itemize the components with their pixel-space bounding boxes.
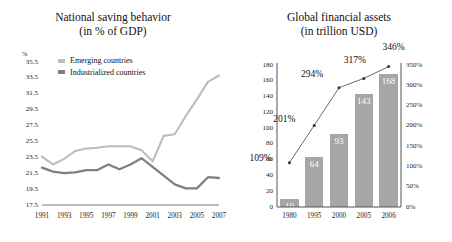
- line-chart-plot: [0, 0, 226, 242]
- percent-data-point: [313, 124, 316, 127]
- percent-data-point: [288, 161, 291, 164]
- line-series-industrialized: [42, 158, 219, 188]
- percent-data-point: [338, 86, 341, 89]
- national-saving-chart-panel: National saving behavior (in % of GDP) %…: [0, 0, 226, 242]
- percent-data-point: [387, 65, 390, 68]
- percent-data-point: [362, 77, 365, 80]
- line-series-emerging: [42, 76, 219, 165]
- percent-trend-line: [289, 67, 388, 163]
- global-financial-assets-panel: Global financial assets (in trillion USD…: [226, 0, 452, 242]
- bar-chart-plot: [226, 0, 452, 242]
